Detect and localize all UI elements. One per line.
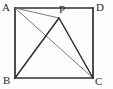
- vertex-label-b: B: [3, 75, 10, 86]
- vertex-label-c: C: [95, 76, 102, 87]
- vertex-label-a: A: [2, 2, 10, 13]
- segment-pc: [59, 18, 93, 78]
- segment-ap: [15, 8, 59, 18]
- geometry-figure: A D B C P: [0, 0, 113, 89]
- segment-pb: [15, 18, 59, 78]
- vertex-label-d: D: [96, 2, 104, 13]
- diagonal-ac: [15, 8, 93, 78]
- vertex-label-p: P: [59, 4, 65, 15]
